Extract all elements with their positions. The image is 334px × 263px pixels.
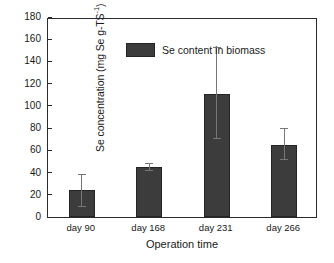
chart-legend: Se content in biomass (126, 43, 265, 57)
y-axis-tick-mark (48, 128, 52, 129)
y-axis-tick-mark (48, 172, 52, 173)
y-axis-label-close-paren: ) (94, 4, 106, 7)
y-axis-tick-mark (48, 217, 52, 218)
error-bar-cap-top (280, 128, 288, 129)
x-axis-tick-label: day 231 (199, 222, 233, 233)
y-axis-tick-label: 100 (24, 99, 41, 112)
plot-area: 020406080100120140160180 Se concentratio… (47, 18, 317, 218)
y-axis-tick-label: 20 (30, 188, 41, 201)
x-axis-tick-label: day 168 (131, 222, 165, 233)
y-axis-label: Se concentration (mg Se g-TS-1) (92, 0, 106, 176)
y-axis-tick-mark (48, 39, 52, 40)
y-axis-tick-mark (48, 194, 52, 195)
legend-label-se-content: Se content in biomass (162, 44, 265, 56)
error-bar-cap-bottom (145, 170, 153, 171)
error-bar-stem (284, 128, 285, 160)
x-axis-tick-label: day 90 (66, 222, 95, 233)
error-bar-cap-bottom (280, 159, 288, 160)
y-axis-tick-label: 60 (30, 143, 41, 156)
error-bar-stem (216, 47, 217, 139)
legend-swatch-se-content (126, 43, 155, 57)
y-axis-tick-label: 140 (24, 54, 41, 67)
error-bar-stem (81, 174, 82, 207)
y-axis-tick-mark (48, 17, 52, 18)
x-axis-tick-label: day 266 (266, 222, 300, 233)
y-axis-tick-mark (48, 105, 52, 106)
y-axis-tick-label: 0 (35, 210, 41, 223)
y-axis-tick-label: 160 (24, 32, 41, 45)
bar (136, 167, 162, 217)
error-bar-cap-bottom (213, 138, 221, 139)
error-bar-cap-top (145, 163, 153, 164)
y-axis-tick-label: 120 (24, 77, 41, 90)
chart-figure: 020406080100120140160180 Se concentratio… (0, 0, 334, 263)
y-axis-label-main: Se concentration (mg Se g-TS (94, 13, 106, 151)
x-axis-label: Operation time (47, 238, 317, 250)
error-bar-cap-bottom (78, 206, 86, 207)
y-axis-tick-label: 80 (30, 121, 41, 134)
y-axis-label-exponent: -1 (92, 7, 101, 13)
y-axis-tick-label: 40 (30, 166, 41, 179)
y-axis-tick-mark (48, 150, 52, 151)
y-axis-tick-mark (48, 61, 52, 62)
y-axis-tick-mark (48, 83, 52, 84)
error-bar-cap-top (78, 174, 86, 175)
y-axis-tick-label: 180 (24, 10, 41, 23)
